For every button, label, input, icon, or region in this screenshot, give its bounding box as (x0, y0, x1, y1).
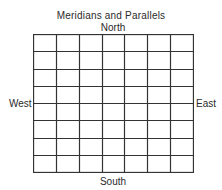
east-label: East (196, 98, 216, 109)
diagram-title: Meridians and Parallels (0, 10, 222, 21)
west-label: West (9, 98, 32, 109)
north-label: North (33, 22, 193, 33)
south-label: South (33, 176, 193, 187)
meridian-parallel-grid (33, 34, 194, 173)
